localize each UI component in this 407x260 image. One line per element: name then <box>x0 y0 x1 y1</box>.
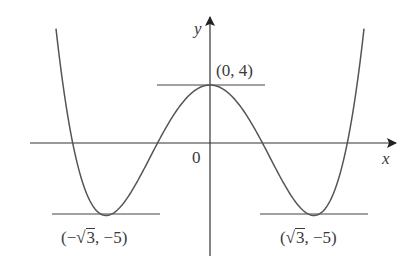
left-min-prefix: (− <box>61 228 76 247</box>
sqrt-symbol: √3 <box>286 228 305 246</box>
right-min-suffix: , −5) <box>305 228 337 247</box>
function-graph <box>0 0 407 260</box>
x-axis-label: x <box>382 150 390 167</box>
origin-label: 0 <box>192 149 201 166</box>
sqrt-symbol: √3 <box>76 228 95 246</box>
right-min-point-label: (√3, −5) <box>280 228 337 246</box>
y-axis-label: y <box>194 20 202 37</box>
left-min-point-label: (−√3, −5) <box>61 228 127 246</box>
max-point-label: (0, 4) <box>216 62 253 79</box>
left-min-suffix: , −5) <box>95 228 127 247</box>
